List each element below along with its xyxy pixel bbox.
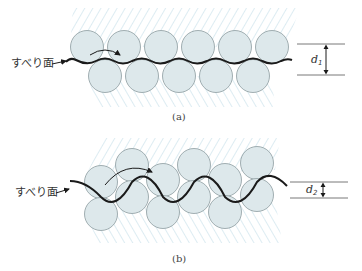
caption-b: (b) (172, 253, 186, 264)
atom-circle (219, 31, 252, 64)
atom-circle (89, 60, 122, 93)
atom-circle (163, 60, 196, 93)
atom-circle (200, 60, 233, 93)
dimension-label-d1: d1 (311, 53, 323, 67)
caption-a: (a) (172, 111, 186, 122)
slip-label-pointer (52, 61, 66, 64)
atom-circle (256, 31, 289, 64)
atom-circle (71, 31, 104, 64)
atom-circle (147, 196, 180, 229)
panel-b: すべり面 d2 (b) (15, 138, 348, 264)
atom-circle (237, 60, 270, 93)
atom-circle (209, 196, 242, 229)
slip-plane-diagram: すべり面 d1 (a) すべり面 d2 (b) (0, 0, 362, 271)
atom-circle (85, 166, 118, 199)
slip-plane-label: すべり面 (11, 57, 54, 70)
slip-plane-label: すべり面 (15, 186, 58, 199)
atom-circle (126, 60, 159, 93)
atom-circle (241, 147, 274, 180)
atom-circle (145, 31, 178, 64)
panel-a: すべり面 d1 (a) (11, 8, 345, 122)
atom-circle (182, 31, 215, 64)
dimension-label-d2: d2 (306, 183, 318, 197)
